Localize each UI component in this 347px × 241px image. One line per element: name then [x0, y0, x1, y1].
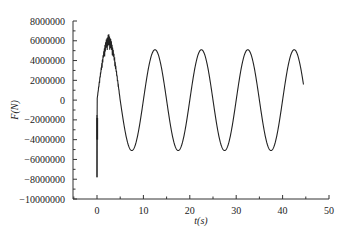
y-tick-label: 4000000 [30, 55, 65, 66]
y-axis-label: F(N) [9, 100, 21, 121]
x-tick-label: 20 [185, 205, 195, 216]
y-tick-label: −2000000 [24, 114, 65, 125]
y-tick-label: −8000000 [24, 174, 65, 185]
x-axis: 01020304050 [73, 195, 334, 216]
x-tick-label: 50 [324, 205, 334, 216]
y-tick-label: −4000000 [24, 134, 65, 145]
x-tick-label: 30 [231, 205, 241, 216]
y-tick-label: 6000000 [30, 35, 65, 46]
series-line [97, 34, 303, 177]
y-tick-label: 2000000 [30, 75, 65, 86]
x-tick-label: 40 [278, 205, 288, 216]
line-chart: 80000006000000400000020000000−2000000−40… [0, 0, 347, 241]
plot-area [97, 34, 303, 177]
x-tick-label: 0 [95, 205, 100, 216]
y-tick-label: 0 [60, 95, 65, 106]
x-axis-label: t(s) [194, 215, 208, 227]
y-tick-label: −10000000 [19, 194, 65, 205]
y-axis: 80000006000000400000020000000−2000000−40… [19, 16, 77, 205]
x-tick-label: 10 [138, 205, 148, 216]
y-tick-label: −6000000 [24, 154, 65, 165]
y-tick-label: 8000000 [30, 16, 65, 27]
